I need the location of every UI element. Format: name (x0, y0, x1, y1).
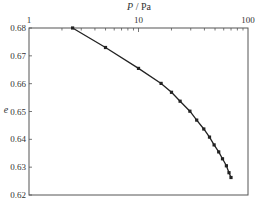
data-point-marker (208, 136, 211, 139)
data-point-marker (188, 110, 191, 113)
y-axis-title: e (4, 104, 9, 115)
y-tick-label: 0.68 (10, 23, 26, 33)
y-tick-label: 0.65 (10, 107, 26, 117)
data-point-marker (225, 164, 228, 167)
plot-frame (29, 28, 248, 195)
x-axis-title: P / Pa (126, 1, 151, 12)
y-tick-label: 0.67 (10, 51, 26, 61)
data-point-marker (221, 157, 224, 160)
data-point-marker (160, 82, 163, 85)
data-point-marker (217, 150, 220, 153)
data-point-marker (195, 119, 198, 122)
data-point-marker (229, 176, 232, 179)
plot-area-border (29, 28, 248, 195)
x-axis: 110100 (27, 15, 256, 32)
series-line (73, 28, 231, 178)
y-tick-label: 0.63 (10, 162, 26, 172)
x-tick-label: 10 (134, 15, 144, 25)
data-point-marker (213, 143, 216, 146)
x-axis-variable: P (126, 1, 133, 12)
x-tick-label: 100 (241, 15, 255, 25)
y-tick-label: 0.62 (10, 190, 26, 200)
data-point-marker (71, 26, 74, 29)
data-point-marker (202, 127, 205, 130)
data-point-marker (104, 46, 107, 49)
data-point-marker (179, 100, 182, 103)
x-tick-label: 1 (27, 15, 32, 25)
data-point-marker (137, 67, 140, 70)
y-tick-label: 0.66 (10, 79, 26, 89)
data-point-marker (227, 171, 230, 174)
data-series (71, 26, 233, 179)
chart: 110100 0.680.670.660.650.640.630.62 P / … (0, 0, 260, 205)
y-tick-label: 0.64 (10, 134, 26, 144)
x-axis-unit: / Pa (133, 1, 151, 12)
data-point-marker (170, 91, 173, 94)
